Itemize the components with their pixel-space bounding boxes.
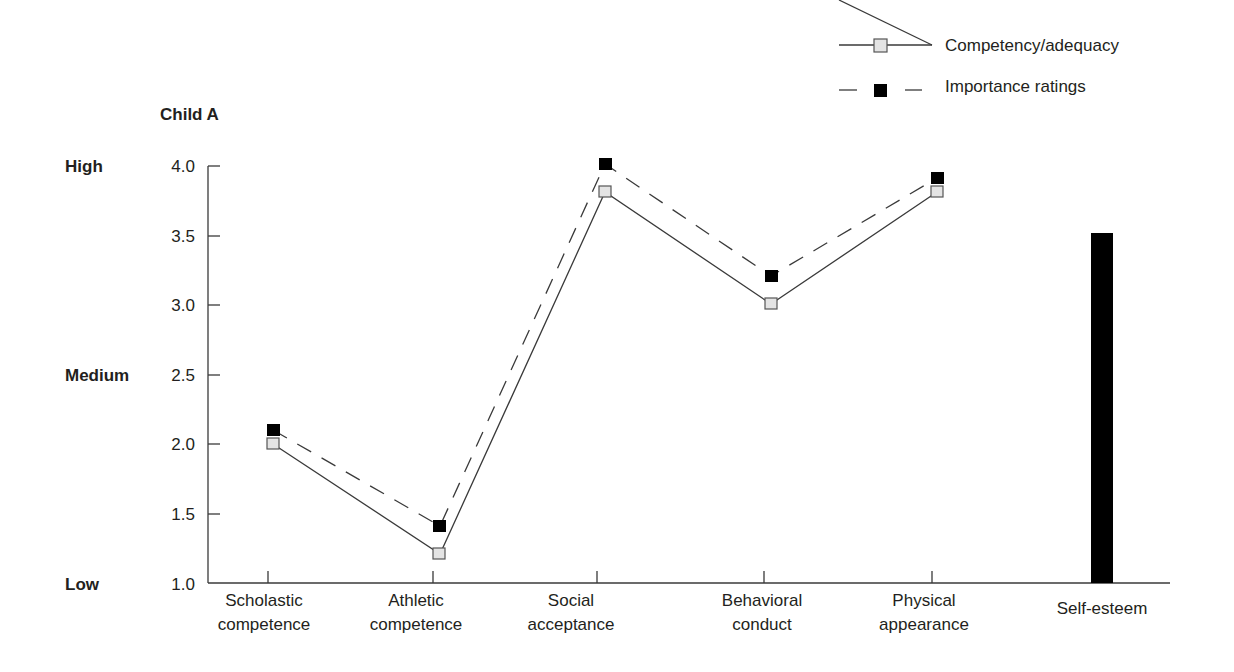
category-label: competence bbox=[370, 615, 463, 634]
category-label: appearance bbox=[879, 615, 969, 634]
level-label-high: High bbox=[65, 157, 103, 176]
category-label: conduct bbox=[732, 615, 792, 634]
data-point-marker bbox=[765, 298, 777, 309]
axes bbox=[208, 166, 1170, 583]
legend-light-square-icon bbox=[874, 39, 887, 52]
legend-solid-line-icon bbox=[839, 0, 932, 45]
importance-markers bbox=[267, 158, 944, 532]
legend-item-competency: Competency/adequacy bbox=[839, 0, 1119, 55]
data-point-marker bbox=[267, 424, 280, 436]
y-tick-label: 2.0 bbox=[171, 435, 195, 454]
legend-dark-square-icon bbox=[874, 84, 887, 97]
data-point-marker bbox=[931, 186, 943, 197]
chart-title: Child A bbox=[160, 105, 219, 124]
importance-ratings-line bbox=[273, 164, 937, 526]
level-label-low: Low bbox=[65, 575, 100, 594]
competency-line bbox=[273, 192, 937, 554]
legend: Competency/adequacy Importance ratings bbox=[839, 0, 1119, 97]
category-label: acceptance bbox=[528, 615, 615, 634]
y-tick-label: 4.0 bbox=[171, 157, 195, 176]
self-esteem-bar bbox=[1091, 233, 1113, 583]
chart: Competency/adequacy Importance ratings C… bbox=[0, 0, 1234, 672]
data-point-marker bbox=[765, 270, 778, 282]
y-tick-label: 3.0 bbox=[171, 296, 195, 315]
data-point-marker bbox=[433, 548, 445, 559]
y-tick-label: 1.0 bbox=[171, 575, 195, 594]
data-point-marker bbox=[931, 172, 944, 184]
data-point-marker bbox=[599, 158, 612, 170]
category-label: Athletic bbox=[388, 591, 444, 610]
y-tick-label: 3.5 bbox=[171, 227, 195, 246]
data-point-marker bbox=[599, 186, 611, 197]
legend-item-importance: Importance ratings bbox=[839, 77, 1086, 97]
level-label-medium: Medium bbox=[65, 366, 129, 385]
competency-markers bbox=[267, 186, 943, 559]
category-label: Self-esteem bbox=[1057, 599, 1148, 618]
x-axis-categories: Scholastic competence Athletic competenc… bbox=[218, 591, 1148, 634]
y-tick-label: 2.5 bbox=[171, 366, 195, 385]
category-label: Social bbox=[548, 591, 594, 610]
y-tick-label: 1.5 bbox=[171, 505, 195, 524]
legend-label-importance: Importance ratings bbox=[945, 77, 1086, 96]
category-label: Behavioral bbox=[722, 591, 802, 610]
data-point-marker bbox=[433, 520, 446, 532]
y-axis-ticks: 4.0 3.5 3.0 2.5 2.0 1.5 1.0 bbox=[171, 157, 195, 594]
category-label: competence bbox=[218, 615, 311, 634]
legend-label-competency: Competency/adequacy bbox=[945, 36, 1119, 55]
data-point-marker bbox=[267, 438, 279, 449]
category-label: Physical bbox=[892, 591, 955, 610]
category-label: Scholastic bbox=[225, 591, 303, 610]
